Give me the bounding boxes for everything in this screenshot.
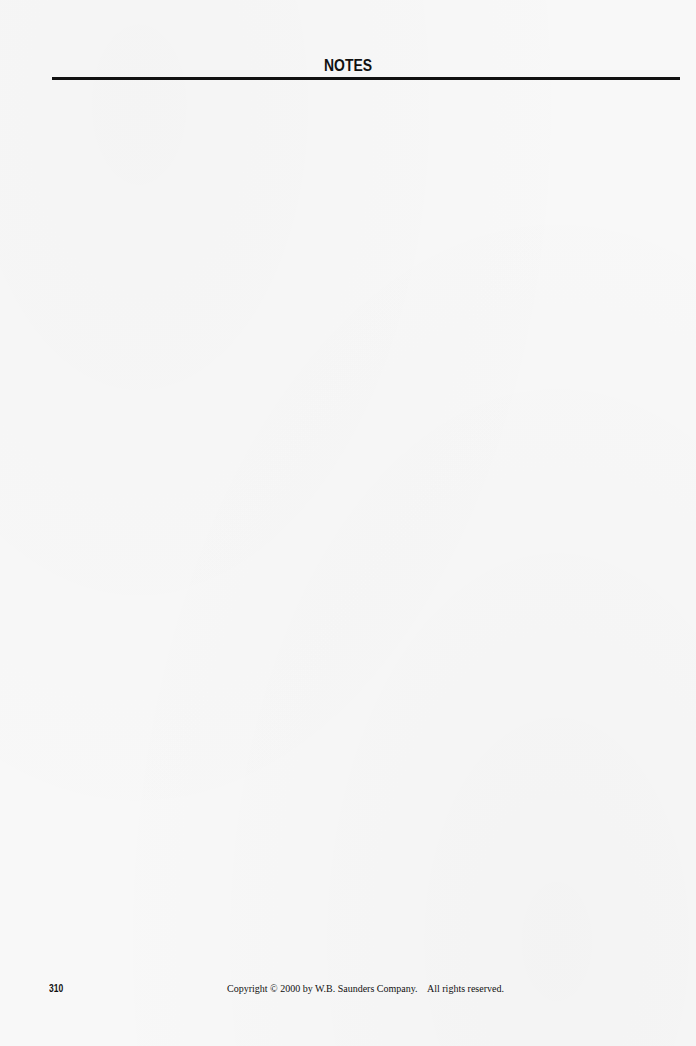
copyright-notice: Copyright © 2000 by W.B. Saunders Compan… — [227, 983, 504, 994]
header-divider — [52, 77, 680, 80]
notes-area — [52, 82, 680, 962]
page-number: 310 — [49, 983, 63, 994]
page-title: NOTES — [63, 56, 634, 76]
